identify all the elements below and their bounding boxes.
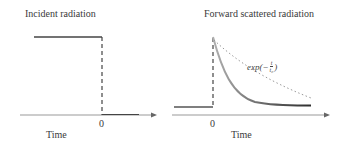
eq-prefix: exp( xyxy=(247,62,263,72)
eq-numerator: t xyxy=(270,60,274,67)
right-zero-label: 0 xyxy=(210,118,215,129)
left-zero-label: 0 xyxy=(99,118,104,129)
eq-denominator: t₀ xyxy=(270,67,274,73)
left-time-label: Time xyxy=(46,129,67,140)
diagram-canvas xyxy=(0,0,344,145)
left-plot xyxy=(20,37,157,118)
eq-minus: − xyxy=(263,62,269,72)
right-plot xyxy=(172,37,330,118)
left-panel-title: Incident radiation xyxy=(25,8,96,19)
right-panel-title: Forward scattered radiation xyxy=(204,8,314,19)
right-axis-arrow-icon xyxy=(324,113,330,118)
eq-suffix: ) xyxy=(274,62,277,72)
right-time-label: Time xyxy=(231,129,252,140)
exp-equation: exp( − t t₀ ) xyxy=(247,60,277,73)
eq-fraction: t t₀ xyxy=(270,60,274,73)
left-axis-arrow-icon xyxy=(151,113,157,118)
